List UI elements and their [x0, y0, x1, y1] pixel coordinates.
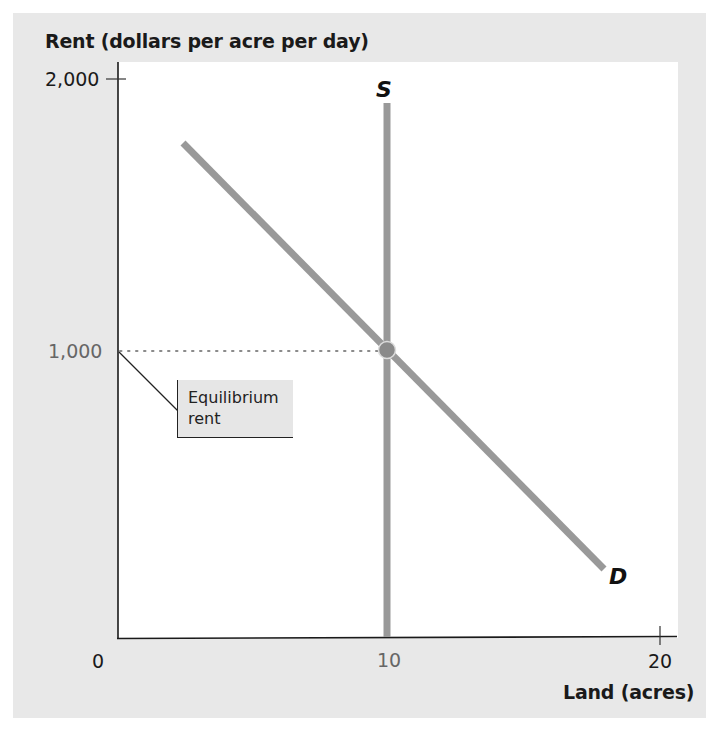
x-tick-label-10: 10	[377, 651, 401, 670]
x-axis-label: Land (acres)	[563, 683, 694, 702]
callout-text: Equilibrium rent	[188, 387, 279, 429]
x-axis	[117, 637, 677, 639]
y-axis-label: Rent (dollars per acre per day)	[45, 32, 369, 51]
equilibrium-point	[379, 342, 396, 359]
y-tick-label-2000: 2,000	[45, 70, 99, 89]
demand-curve-label: D	[609, 566, 627, 588]
chart-canvas	[0, 0, 724, 739]
supply-curve-label: S	[376, 79, 392, 101]
equilibrium-rent-callout: Equilibrium rent	[177, 380, 293, 438]
x-tick-label-20: 20	[648, 652, 672, 671]
callout-leader-line	[119, 352, 178, 411]
y-tick-label-1000: 1,000	[48, 342, 102, 361]
x-tick-label-0: 0	[92, 652, 104, 671]
